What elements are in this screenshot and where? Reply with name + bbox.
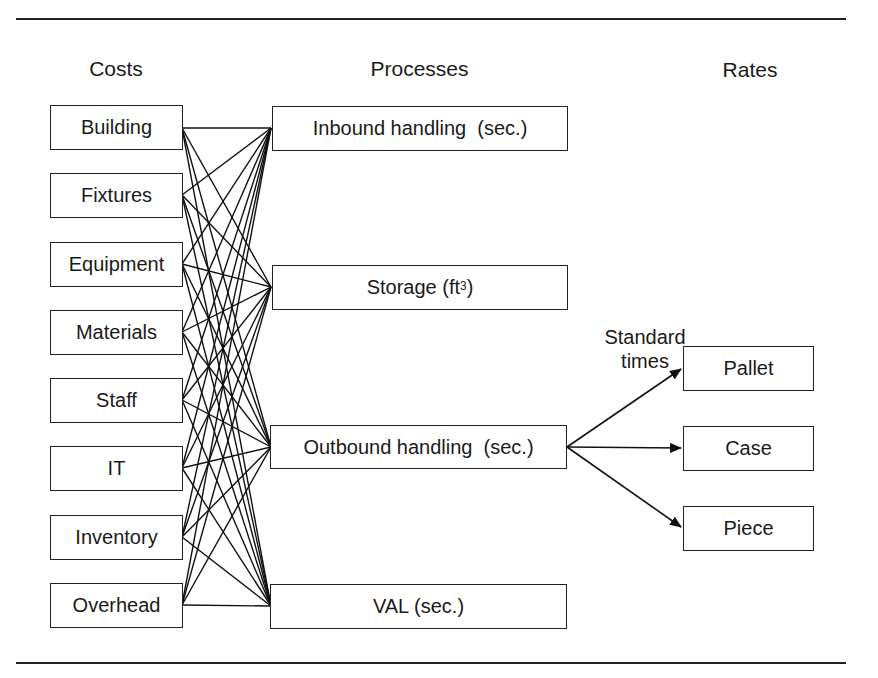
rate-pallet: Pallet (683, 346, 814, 391)
arrow-to-pallet (567, 369, 681, 447)
cost-process-link (182, 195, 271, 447)
arrow-to-piece (567, 447, 681, 527)
cost-process-link (182, 447, 271, 537)
cost-overhead: Overhead (50, 583, 183, 628)
cost-materials: Materials (50, 310, 183, 355)
standard-time-arrows (567, 369, 681, 527)
process-label: Storage (ft (367, 276, 460, 299)
annotation-line1: Standard (595, 325, 695, 349)
cost-staff: Staff (50, 378, 183, 423)
cost-building: Building (50, 105, 183, 150)
cost-process-link (182, 332, 271, 606)
process-inbound-handling: Inbound handling (sec.) (272, 106, 568, 151)
process-val: VAL (sec.) (270, 584, 567, 629)
cost-process-link (182, 264, 271, 287)
cost-process-link (182, 400, 271, 606)
annotation-line2: times (595, 349, 695, 373)
cost-fixtures: Fixtures (50, 173, 183, 218)
process-label: VAL (sec.) (373, 595, 464, 618)
cost-process-link (182, 128, 271, 468)
process-label-suffix: ) (467, 276, 474, 299)
cost-process-link (182, 447, 271, 468)
cost-process-link (182, 605, 271, 606)
cost-equipment: Equipment (50, 242, 183, 287)
process-storage: Storage (ft3) (272, 265, 568, 310)
process-label: Outbound handling (sec.) (303, 436, 533, 459)
arrow-to-case (567, 447, 681, 448)
cost-inventory: Inventory (50, 515, 183, 560)
cost-process-link (182, 287, 271, 400)
cost-process-link (182, 128, 271, 195)
cost-it: IT (50, 446, 183, 491)
rate-case: Case (683, 426, 814, 471)
rate-piece: Piece (683, 506, 814, 551)
process-outbound-handling: Outbound handling (sec.) (270, 425, 567, 469)
standard-times-label: Standard times (595, 325, 695, 373)
process-label: Inbound handling (sec.) (313, 117, 528, 140)
cost-process-link (182, 128, 271, 332)
